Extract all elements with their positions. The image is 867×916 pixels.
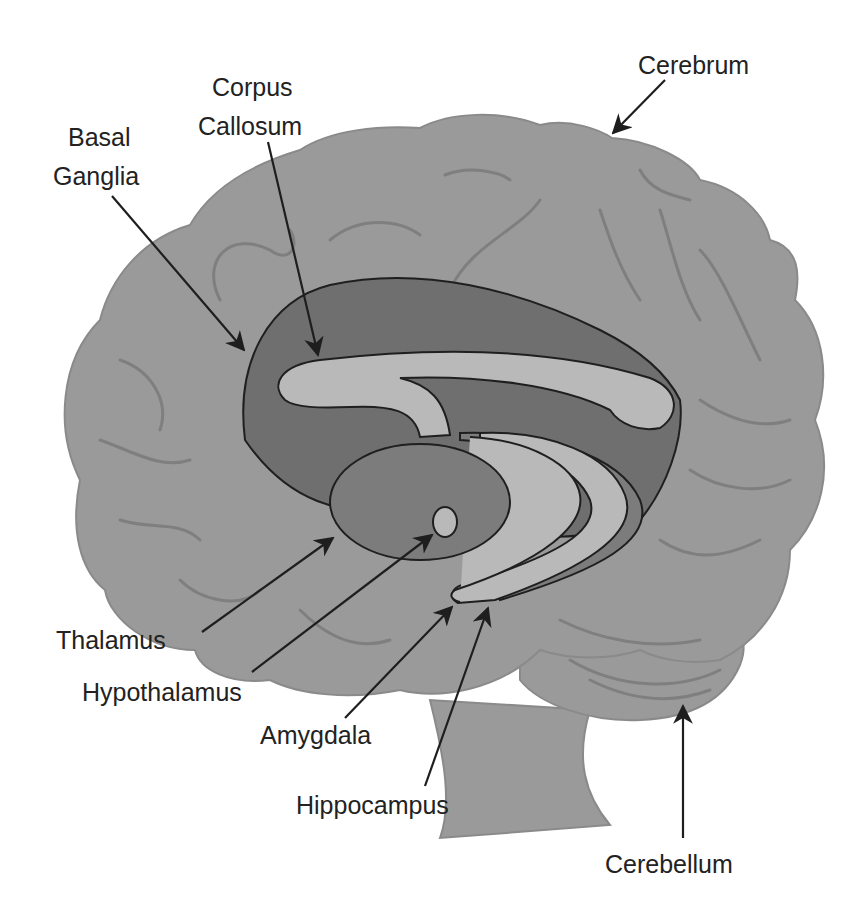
label-cerebrum: Cerebrum xyxy=(638,51,749,79)
label-amygdala: Amygdala xyxy=(260,721,371,749)
label-corpus-callosum-line2: Callosum xyxy=(198,112,302,140)
label-basal-ganglia-line2: Ganglia xyxy=(53,162,139,190)
brain-diagram: Cerebrum Corpus Callosum Basal Ganglia T… xyxy=(0,0,867,916)
brain-stem xyxy=(430,700,610,838)
label-hippocampus: Hippocampus xyxy=(296,791,449,819)
label-cerebellum: Cerebellum xyxy=(605,850,733,878)
thalamus-shape xyxy=(330,444,510,560)
label-hypothalamus: Hypothalamus xyxy=(82,678,242,706)
hypothalamus-shape xyxy=(433,507,457,537)
label-corpus-callosum-line1: Corpus xyxy=(212,73,293,101)
label-basal-ganglia-line1: Basal xyxy=(68,123,131,151)
label-thalamus: Thalamus xyxy=(56,626,166,654)
pointer-cerebrum xyxy=(613,80,665,133)
